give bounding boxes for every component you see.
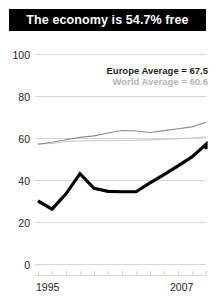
plot-area: [0, 33, 215, 306]
data-series: [38, 122, 206, 209]
x-axis-ticks: [35, 271, 206, 275]
economy-freedom-chart: The economy is 54.7% free 100 80 60 40 2…: [0, 0, 215, 306]
chart-title: The economy is 54.7% free: [26, 14, 188, 27]
gridlines: [35, 54, 206, 264]
series-line-country: [38, 144, 206, 209]
chart-title-bar: The economy is 54.7% free: [9, 9, 206, 31]
